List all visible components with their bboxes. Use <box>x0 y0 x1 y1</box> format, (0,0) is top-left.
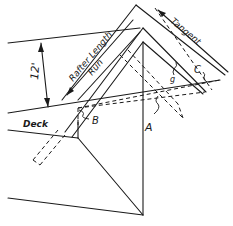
rise-arrow-bottom <box>44 98 50 107</box>
point-g-label: g <box>170 75 175 84</box>
deck-label: Deck <box>23 119 49 129</box>
rafter-line-2 <box>72 42 143 137</box>
point-b-label: B <box>92 115 99 126</box>
point-a-label: A <box>144 121 153 134</box>
rise-label: 12' <box>28 62 42 80</box>
rafter-top-edge <box>136 5 225 75</box>
point-c-label: C <box>194 64 201 75</box>
dashed-plan-line-2 <box>78 92 205 108</box>
c-leader <box>203 72 207 82</box>
lower-line <box>8 198 143 215</box>
upper-plate-line <box>8 28 140 43</box>
rise-arrow-top <box>38 43 44 52</box>
tangent-label: Tangent <box>169 16 204 47</box>
dashed-lower-rafter-end <box>33 160 40 165</box>
deck-top-line <box>8 80 220 113</box>
hip-diagonal-line <box>78 138 143 215</box>
roof-framing-diagram: 12' Rafter Length Run Tangent Deck B A C… <box>0 0 233 226</box>
deck-bottom-line <box>8 130 78 138</box>
dashed-lower-rafter-2 <box>40 135 65 165</box>
rise-dimension-line <box>41 43 48 107</box>
dashed-rafter-edge-1 <box>120 55 183 118</box>
